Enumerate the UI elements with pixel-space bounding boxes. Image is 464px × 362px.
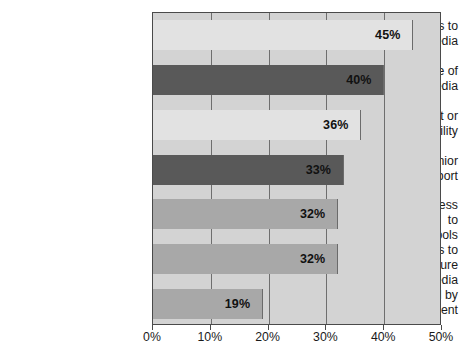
bar-row: 32% bbox=[153, 244, 442, 274]
bar-value-label: 19% bbox=[225, 297, 250, 311]
plot-area: 45%40%36%33%32%32%19% bbox=[152, 12, 441, 325]
bar-row: 40% bbox=[153, 65, 442, 95]
x-tick-label: 50% bbox=[429, 330, 454, 344]
bar-value-label: 32% bbox=[300, 252, 325, 266]
bar bbox=[153, 20, 413, 50]
x-tick-label: 10% bbox=[197, 330, 222, 344]
bar-row: 33% bbox=[153, 155, 442, 185]
bar-row: 45% bbox=[153, 20, 442, 50]
x-tick-label: 30% bbox=[313, 330, 338, 344]
bar-value-label: 36% bbox=[323, 118, 348, 132]
bar-value-label: 45% bbox=[375, 28, 400, 42]
bar-value-label: 40% bbox=[346, 73, 371, 87]
bar-row: 32% bbox=[153, 199, 442, 229]
bar-value-label: 33% bbox=[306, 163, 331, 177]
bar-value-label: 32% bbox=[300, 207, 325, 221]
bar-row: 19% bbox=[153, 289, 442, 319]
x-tick-label: 0% bbox=[143, 330, 161, 344]
bar-row: 36% bbox=[153, 110, 442, 140]
bar-chart: Limited staff/resources toimplement soci… bbox=[0, 0, 464, 362]
x-tick-label: 40% bbox=[371, 330, 396, 344]
x-tick-label: 20% bbox=[255, 330, 280, 344]
